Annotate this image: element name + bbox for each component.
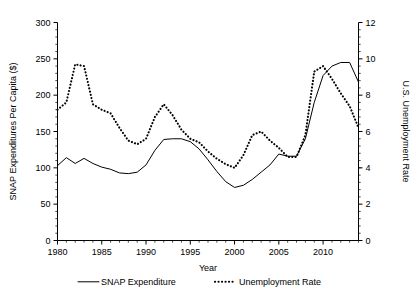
right-axis-tick-label: 8 <box>366 90 371 100</box>
left-axis-tick-label: 50 <box>40 199 50 209</box>
chart-figure: 0501001502002503000246810121980198519901… <box>0 0 417 300</box>
right-axis-tick-label: 12 <box>366 18 376 28</box>
left-axis-tick-label: 150 <box>35 127 50 137</box>
left-axis-tick-label: 250 <box>35 54 50 64</box>
legend-label: Unemployment Rate <box>239 277 321 287</box>
x-axis-tick-label: 1985 <box>92 247 112 257</box>
x-axis-tick-label: 1990 <box>136 247 156 257</box>
legend-label: SNAP Expenditure <box>101 277 176 287</box>
left-axis-tick-label: 0 <box>45 236 50 246</box>
right-axis-tick-label: 4 <box>366 163 371 173</box>
right-axis-title: U.S. Unemployment Rate <box>401 80 411 182</box>
left-axis-tick-label: 100 <box>35 163 50 173</box>
x-axis-title: Year <box>199 263 217 273</box>
left-axis-tick-label: 200 <box>35 90 50 100</box>
x-axis-tick-label: 2000 <box>225 247 245 257</box>
left-axis-tick-label: 300 <box>35 18 50 28</box>
left-axis-title: SNAP Expenditures Per Capita ($) <box>8 63 18 201</box>
x-axis-tick-label: 1980 <box>47 247 67 257</box>
snap-unemployment-line-chart: 0501001502002503000246810121980198519901… <box>0 0 417 300</box>
right-axis-tick-label: 6 <box>366 127 371 137</box>
right-axis-tick-label: 2 <box>366 199 371 209</box>
right-axis-tick-label: 0 <box>366 236 371 246</box>
x-axis-tick-label: 2005 <box>269 247 289 257</box>
x-axis-tick-label: 2010 <box>313 247 333 257</box>
x-axis-tick-label: 1995 <box>180 247 200 257</box>
right-axis-tick-label: 10 <box>366 54 376 64</box>
